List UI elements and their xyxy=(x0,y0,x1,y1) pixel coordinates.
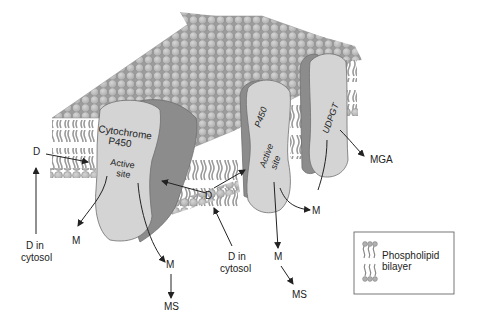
m-label-right-lower: M xyxy=(274,251,282,262)
m-label-right-p450: M xyxy=(312,205,320,216)
legend-line1: Phospholipid xyxy=(382,250,439,261)
m-label-center: M xyxy=(166,259,174,270)
d-label-left: D xyxy=(33,146,40,157)
mga-label: MGA xyxy=(370,154,393,165)
enzyme-udpgt xyxy=(300,54,348,177)
d-in-cytosol-left-line2: cytosol xyxy=(21,252,52,263)
ms-label-left: MS xyxy=(164,301,179,312)
membrane-left-bilayer xyxy=(50,120,96,178)
d-in-cytosol-center-line1: D in xyxy=(228,251,246,262)
ms-label-right: MS xyxy=(292,289,307,300)
m-label-left: M xyxy=(72,235,80,246)
d-label-center: D xyxy=(205,190,212,201)
d-in-cytosol-left-line1: D in xyxy=(26,240,44,251)
membrane-diagram: Cytochrome P450 Active site P450 Active … xyxy=(0,0,477,324)
legend-line2: bilayer xyxy=(382,261,412,272)
legend: Phospholipid bilayer xyxy=(354,232,454,294)
site-label-left: site xyxy=(116,168,131,180)
enzyme-cytochrome-p450-left xyxy=(96,100,197,242)
d-in-cytosol-center-line2: cytosol xyxy=(220,263,251,274)
